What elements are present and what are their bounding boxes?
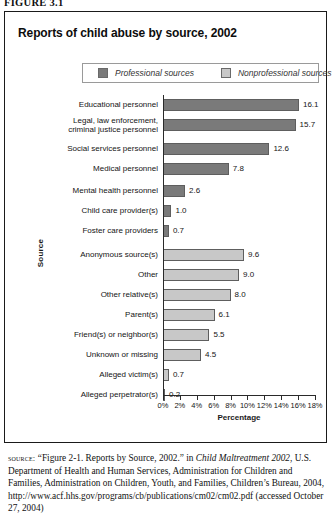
bar [163, 163, 229, 175]
figure-label: FIGURE 3.1 [4, 0, 64, 8]
bar-row: Medical personnel7.8 [18, 159, 315, 179]
bar [163, 269, 239, 281]
bar-zone: 5.5 [163, 325, 315, 345]
bar-row: Legal, law enforcement, criminal justice… [18, 115, 315, 135]
x-axis-tick-label: 12% [257, 401, 272, 410]
x-axis-tick-label: 16% [291, 401, 306, 410]
x-axis-tick-label: 10% [240, 401, 255, 410]
bar [163, 205, 171, 217]
bar-value-label: 9.0 [243, 269, 254, 281]
x-axis-tick-label: 8% [225, 401, 236, 410]
bar-value-label: 0.7 [173, 369, 184, 381]
legend-label-professional: Professional sources [115, 68, 194, 78]
bar-row: Other relative(s)8.0 [18, 285, 315, 305]
bar [163, 349, 201, 361]
bar-zone: 9.0 [163, 265, 315, 285]
bar-category-label: Anonymous source(s) [18, 250, 163, 260]
legend-item-professional: Professional sources [98, 68, 194, 78]
bar-value-label: 9.6 [248, 249, 259, 261]
bar-category-label: Social services personnel [18, 144, 163, 154]
bar-category-label: Educational personnel [18, 100, 163, 110]
x-axis-tick [231, 395, 232, 400]
bar [163, 249, 244, 261]
legend-label-nonprofessional: Nonprofessional sources [238, 68, 332, 78]
x-axis-tick [247, 395, 248, 400]
bar-value-label: 7.8 [233, 163, 244, 175]
source-note: source: “Figure 2-1. Reports by Source, … [8, 452, 326, 515]
bar-value-label: 6.1 [219, 309, 230, 321]
x-axis-tick-label: 4% [191, 401, 202, 410]
bar [163, 329, 209, 341]
bar-zone: 6.1 [163, 305, 315, 325]
bar-value-label: 16.1 [303, 99, 319, 111]
bar-category-label: Alleged perpetrator(s) [18, 390, 163, 400]
bar-zone: 2.6 [163, 181, 315, 201]
bar-zone: 8.0 [163, 285, 315, 305]
legend-item-nonprofessional: Nonprofessional sources [221, 68, 332, 78]
bar-row: Unknown or missing4.5 [18, 345, 315, 365]
x-axis-title: Percentage [163, 413, 315, 422]
bar-row: Social services personnel12.6 [18, 139, 315, 159]
x-axis-tick [163, 395, 164, 400]
bar-value-label: 0.7 [173, 225, 184, 237]
x-axis-tick [197, 395, 198, 400]
bar-row: Friend(s) or neighbor(s)5.5 [18, 325, 315, 345]
bar [163, 289, 231, 301]
bar-row: Foster care providers0.7 [18, 221, 315, 241]
x-axis-tick [180, 395, 181, 400]
x-axis-tick-label: 14% [274, 401, 289, 410]
bar-category-label: Friend(s) or neighbor(s) [18, 330, 163, 340]
bar-category-label: Other relative(s) [18, 290, 163, 300]
bar-zone: 16.1 [163, 95, 315, 115]
bar-value-label: 15.7 [300, 119, 316, 131]
x-axis-tick-label: 2% [174, 401, 185, 410]
source-title-italic: Child Maltreatment 2002 [196, 453, 290, 463]
bar-value-label: 2.6 [189, 185, 200, 197]
source-kicker: source: [8, 453, 35, 463]
bar-category-label: Unknown or missing [18, 350, 163, 360]
bar-zone: 0.7 [163, 221, 315, 241]
bar-category-label: Other [18, 270, 163, 280]
bar [163, 143, 269, 155]
x-axis-tick-label: 0% [158, 401, 169, 410]
x-axis-tick [214, 395, 215, 400]
source-text-1: “Figure 2-1. Reports by Source, 2002.” i… [35, 453, 195, 463]
x-axis-tick-label: 18% [307, 401, 322, 410]
chart-frame: Reports of child abuse by source, 2002 P… [4, 11, 327, 443]
bar-zone: 7.8 [163, 159, 315, 179]
bar-category-label: Alleged victim(s) [18, 370, 163, 380]
bar-zone: 4.5 [163, 345, 315, 365]
bar-category-label: Foster care providers [18, 226, 163, 236]
legend-swatch-nonprofessional [221, 68, 231, 78]
bar-row: Educational personnel16.1 [18, 95, 315, 115]
plot-area: Source Educational personnel16.1Legal, l… [18, 95, 315, 430]
x-axis-tick [298, 395, 299, 400]
bar-row: Alleged victim(s)0.7 [18, 365, 315, 385]
bar-rows: Educational personnel16.1Legal, law enfo… [18, 95, 315, 395]
bar-value-label: 4.5 [205, 349, 216, 361]
x-axis-tick [315, 395, 316, 400]
bar-category-label: Parent(s) [18, 310, 163, 320]
bar-zone: 1.0 [163, 201, 315, 221]
bar-value-label: 8.0 [235, 289, 246, 301]
bar [163, 185, 185, 197]
bar-category-label: Legal, law enforcement, criminal justice… [18, 116, 163, 135]
bar-zone: 0.7 [163, 365, 315, 385]
bar-category-label: Mental health personnel [18, 186, 163, 196]
chart-legend: Professional sources Nonprofessional sou… [82, 63, 319, 83]
x-axis-tick [264, 395, 265, 400]
bar-row: Anonymous source(s)9.6 [18, 245, 315, 265]
chart-title: Reports of child abuse by source, 2002 [18, 26, 237, 40]
bar [163, 309, 215, 321]
y-axis-line [163, 95, 164, 395]
bar-row: Parent(s)6.1 [18, 305, 315, 325]
legend-swatch-professional [98, 68, 108, 78]
bar [163, 119, 296, 131]
bar-row: Child care provider(s)1.0 [18, 201, 315, 221]
bar-row: Other9.0 [18, 265, 315, 285]
bar-value-label: 5.5 [213, 329, 224, 341]
bar-value-label: 1.0 [175, 205, 186, 217]
bar-value-label: 12.6 [273, 143, 289, 155]
x-axis-tick-label: 6% [208, 401, 219, 410]
x-axis-line [163, 395, 315, 396]
